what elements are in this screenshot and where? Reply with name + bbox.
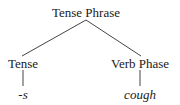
node-tense-phrase: Tense Phrase <box>52 6 120 19</box>
edge-root-to-verb-phase <box>86 20 141 56</box>
syntax-tree-diagram: Tense Phrase Tense Verb Phase -s cough <box>0 0 180 105</box>
node-tense: Tense <box>8 57 38 70</box>
leaf-s: -s <box>18 88 27 101</box>
edge-root-to-tense <box>22 20 86 56</box>
node-verb-phase: Verb Phase <box>111 57 169 70</box>
leaf-cough: cough <box>124 88 156 101</box>
